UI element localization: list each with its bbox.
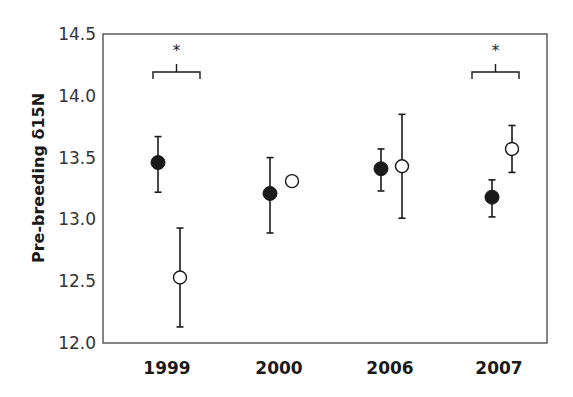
chart: 12.012.513.013.514.014.5 199920002006200… xyxy=(0,0,573,397)
open-point-2007 xyxy=(506,125,519,172)
open-point-2006 xyxy=(396,114,409,218)
open-circle-marker xyxy=(506,142,519,155)
filled-circle-marker xyxy=(263,186,277,200)
open-point-1999 xyxy=(174,228,187,327)
x-category-label: 2000 xyxy=(255,358,302,378)
y-tick-label: 14.0 xyxy=(58,86,96,106)
plot-frame xyxy=(103,34,547,343)
open-point-2000 xyxy=(286,175,299,188)
data-points xyxy=(151,114,519,327)
filled-circle-marker xyxy=(151,156,165,170)
x-category-label: 2007 xyxy=(475,358,522,378)
significance-bracket-2007: * xyxy=(472,42,519,79)
asterisk: * xyxy=(492,42,500,60)
filled-circle-marker xyxy=(485,190,499,204)
asterisk: * xyxy=(173,42,181,60)
significance-brackets: ** xyxy=(153,42,519,79)
open-circle-marker xyxy=(286,175,299,188)
filled-point-2006 xyxy=(374,149,388,191)
x-axis-labels: 1999200020062007 xyxy=(143,358,522,378)
y-axis-title: Pre-breeding δ15N xyxy=(29,93,48,263)
filled-circle-marker xyxy=(374,162,388,176)
filled-point-1999 xyxy=(151,137,165,193)
x-category-label: 2006 xyxy=(366,358,413,378)
y-tick-label: 12.5 xyxy=(58,271,96,291)
y-tick-label: 13.5 xyxy=(58,148,96,168)
y-tick-label: 12.0 xyxy=(58,333,96,353)
filled-point-2000 xyxy=(263,158,277,233)
open-circle-marker xyxy=(174,271,187,284)
y-axis-ticks: 12.012.513.013.514.014.5 xyxy=(58,24,96,353)
filled-point-2007 xyxy=(485,180,499,217)
x-category-label: 1999 xyxy=(143,358,190,378)
open-circle-marker xyxy=(396,160,409,173)
y-tick-label: 14.5 xyxy=(58,24,96,44)
y-tick-label: 13.0 xyxy=(58,209,96,229)
significance-bracket-1999: * xyxy=(153,42,200,79)
